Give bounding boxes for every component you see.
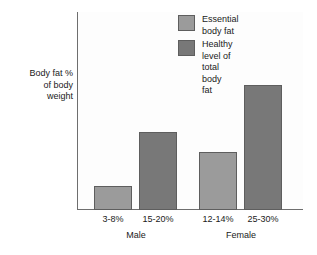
x-group-label-female: Female	[213, 230, 269, 241]
legend-item-label: Essential body fat	[202, 14, 239, 37]
x-tick-label: 25-30%	[235, 214, 291, 225]
bar-male-healthy	[139, 132, 177, 210]
y-axis-line	[77, 12, 78, 210]
bar-female-essential	[199, 152, 237, 210]
bar-female-healthy	[244, 85, 282, 210]
legend-swatch-icon	[178, 15, 195, 31]
legend-item-essential: Essential body fat	[178, 14, 239, 37]
bar-chart: Body fat % of body weight 3-8% 15-20% 12…	[0, 0, 317, 255]
y-axis-title: Body fat % of body weight	[2, 68, 73, 103]
x-group-label-male: Male	[108, 230, 164, 241]
legend-item-healthy: Healthy level of total body fat	[178, 39, 233, 97]
x-tick-label: 15-20%	[129, 214, 187, 225]
bar-male-essential	[94, 186, 132, 210]
legend-swatch-icon	[178, 40, 195, 56]
legend-item-label: Healthy level of total body fat	[202, 39, 233, 97]
